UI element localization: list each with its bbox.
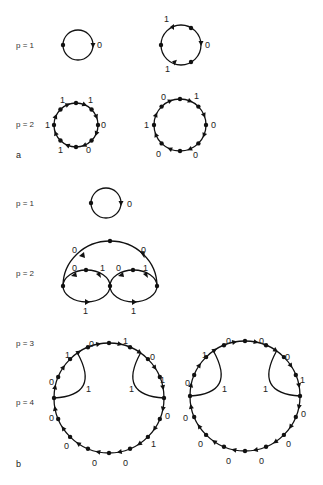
edge-label: 0 <box>116 263 121 273</box>
edge-label: 0 <box>193 150 198 160</box>
arrow-icon <box>132 299 137 305</box>
edge-label: 0 <box>49 413 54 423</box>
edge-label: 1 <box>83 306 88 316</box>
arrow-icon <box>199 41 204 46</box>
node <box>131 268 135 272</box>
edge-label: 1 <box>222 384 227 394</box>
node <box>84 268 88 272</box>
graph-a-p1-cycle1: 0 <box>61 30 102 60</box>
edge-label: 1 <box>151 439 156 449</box>
node <box>243 449 247 453</box>
edge-label: 0 <box>211 120 216 130</box>
edge-label: 1 <box>45 120 50 130</box>
arrow-icon <box>201 112 208 119</box>
edge-label: 0 <box>141 245 146 255</box>
node <box>155 284 159 288</box>
node <box>159 104 163 108</box>
node <box>189 60 193 64</box>
panel-label-a: a <box>16 150 21 160</box>
node <box>56 417 60 421</box>
node <box>128 345 132 349</box>
node <box>58 107 62 111</box>
graph-a-p1-cycle2: 1 0 1 <box>159 14 210 74</box>
node <box>89 201 93 205</box>
row-label-a-p1: p = 1 <box>16 41 35 50</box>
edge-label: 0 <box>150 352 155 362</box>
node <box>58 138 62 142</box>
edge-label: 0 <box>92 458 97 468</box>
edge-label: 0 <box>127 199 132 209</box>
arrow-icon <box>91 43 96 48</box>
node <box>152 123 156 127</box>
edge-label: 0 <box>285 352 290 362</box>
node <box>108 239 112 243</box>
edge-label: 0 <box>301 409 306 419</box>
node <box>107 451 111 455</box>
arrow-icon <box>170 24 174 30</box>
arrow-icon <box>166 146 173 153</box>
edge-label: 0 <box>123 458 128 468</box>
edge-label: 0 <box>64 441 69 451</box>
node <box>222 445 226 449</box>
edge-label: 1 <box>88 95 93 105</box>
arrow-icon <box>119 201 124 206</box>
edge <box>110 270 157 302</box>
graph-b-p1-cycle: 0 <box>89 188 132 218</box>
edge-label: 1 <box>194 91 199 101</box>
edge-label: 1 <box>60 95 65 105</box>
edge-label: 0 <box>72 245 77 255</box>
edge-label: 0 <box>101 120 106 130</box>
node <box>159 43 163 47</box>
edge-label: 1 <box>58 145 63 155</box>
arrow-icon <box>153 111 160 118</box>
arrow-icon <box>167 98 174 105</box>
node <box>56 375 60 379</box>
edge-label: 0 <box>165 411 170 421</box>
panel-label-b: b <box>16 459 21 469</box>
node <box>89 138 93 142</box>
arrow-icon <box>79 252 85 258</box>
node <box>196 104 200 108</box>
arrow-icon <box>53 113 60 120</box>
edge <box>91 188 121 218</box>
edge-label: 1 <box>165 64 170 74</box>
node <box>178 149 182 153</box>
edge <box>63 30 93 60</box>
edge-label: 0 <box>156 149 161 159</box>
edge-label: 1 <box>86 384 91 394</box>
node <box>204 433 208 437</box>
edge-label: 0 <box>161 92 166 102</box>
edge-label: 0 <box>49 377 54 387</box>
row-label-b-p1: p = 1 <box>16 199 35 208</box>
edge-label: 1 <box>129 384 134 394</box>
node <box>204 123 208 127</box>
edge-label: 0 <box>86 145 91 155</box>
node <box>159 141 163 145</box>
arrow-icon <box>65 101 72 108</box>
node <box>86 447 90 451</box>
edge-label: 0 <box>226 456 231 466</box>
node <box>74 101 78 105</box>
node <box>294 415 298 419</box>
edge <box>63 270 110 302</box>
edge-label: 0 <box>183 413 188 423</box>
row-label-b-p3: p = 3 <box>16 339 35 348</box>
node <box>68 435 72 439</box>
node <box>52 123 56 127</box>
edge-label: 0 <box>205 40 210 50</box>
edge-label: 1 <box>160 375 165 385</box>
node <box>243 339 247 343</box>
node <box>96 123 100 127</box>
arrow-icon <box>186 146 193 153</box>
node <box>146 435 150 439</box>
arrow-icon <box>201 132 208 139</box>
edge <box>161 25 201 65</box>
node <box>107 341 111 345</box>
edge-label: 1 <box>263 384 268 394</box>
row-label-b-p4: p = 4 <box>16 398 35 407</box>
graph-a-p2-cycle2 <box>152 97 208 153</box>
row-label-b-p2: p = 2 <box>16 269 35 278</box>
edge-label: 1 <box>100 263 105 273</box>
row-label-a-p2: p = 2 <box>16 120 35 129</box>
edge-label: 1 <box>144 120 149 130</box>
